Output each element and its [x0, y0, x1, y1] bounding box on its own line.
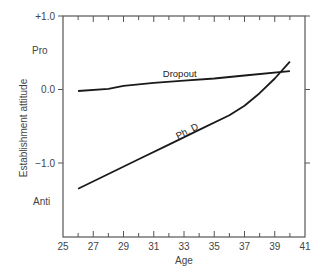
x-tick-label: 39: [269, 241, 281, 252]
dropout-series-label: Dropout: [163, 68, 197, 79]
y-tick-label: +1.0: [35, 11, 55, 22]
pro-annotation: Pro: [32, 45, 48, 56]
y-axis-label: Establishment attitude: [18, 78, 29, 177]
x-tick-label: 41: [299, 241, 311, 252]
x-tick-label: 33: [178, 241, 190, 252]
phd-series-label: Ph. D: [174, 121, 200, 142]
y-tick-label: −1.0: [35, 158, 55, 169]
chart: 252729313335373941+1.00.0−1.0DropoutPh. …: [0, 0, 328, 276]
plot-area: 252729313335373941+1.00.0−1.0DropoutPh. …: [35, 11, 311, 253]
x-tick-label: 35: [209, 241, 221, 252]
x-axis-label: Age: [175, 255, 193, 266]
x-tick-label: 27: [88, 241, 100, 252]
x-tick-label: 37: [239, 241, 251, 252]
x-tick-label: 31: [148, 241, 160, 252]
anti-annotation: Anti: [33, 196, 50, 207]
x-tick-label: 25: [57, 241, 69, 252]
y-tick-label: 0.0: [41, 84, 55, 95]
x-tick-label: 29: [118, 241, 130, 252]
